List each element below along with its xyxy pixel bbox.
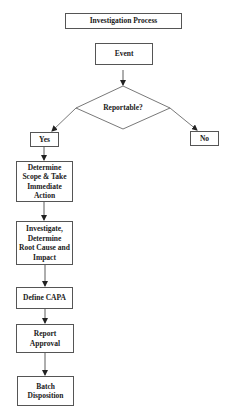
node-determine-scope: Determine Scope & Take Immediate Action xyxy=(16,161,73,202)
node-investigate: Investigate, Determine Root Cause and Im… xyxy=(16,221,73,265)
node-define-capa: Define CAPA xyxy=(16,287,73,309)
node-no: No xyxy=(190,131,219,146)
arrow-decision-to-no xyxy=(170,108,197,130)
node-report-approval: Report Approval xyxy=(16,324,74,353)
decision-label: Reportable? xyxy=(83,103,163,112)
node-yes: Yes xyxy=(30,132,59,147)
arrow-decision-to-yes xyxy=(52,108,76,131)
title-box: Investigation Process xyxy=(65,13,182,29)
node-event: Event xyxy=(95,43,153,65)
node-batch-disposition: Batch Disposition xyxy=(17,376,74,406)
